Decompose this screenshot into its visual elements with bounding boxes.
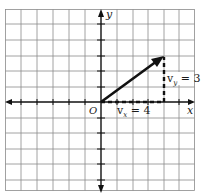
x-axis-left-arrow-icon — [5, 99, 12, 105]
velocity-vector — [101, 56, 164, 102]
x-axis-label: x — [187, 104, 194, 117]
y-axis-label: y — [105, 8, 113, 21]
vector-diagram: y x O vx = 4 vy = 3 — [0, 0, 202, 195]
coordinate-grid-svg: y x O vx = 4 vy = 3 — [0, 0, 202, 195]
x-axis — [5, 99, 195, 105]
vx-label: vx = 4 — [116, 104, 150, 119]
grid — [6, 10, 195, 191]
svg-text:vx = 4: vx = 4 — [116, 104, 150, 119]
y-axis-down-arrow-icon — [98, 185, 104, 193]
y-axis-up-arrow-icon — [98, 9, 104, 17]
svg-text:vy = 3: vy = 3 — [166, 72, 200, 87]
vy-label: vy = 3 — [166, 72, 200, 87]
grid-border — [6, 10, 195, 191]
origin-label: O — [89, 105, 97, 116]
